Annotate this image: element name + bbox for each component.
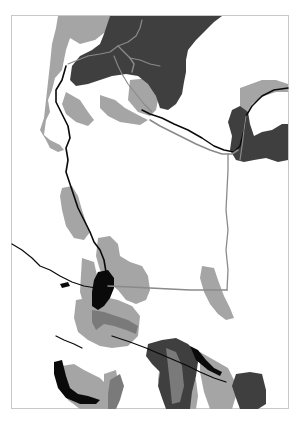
map-canvas — [0, 0, 299, 423]
map-container — [0, 0, 299, 423]
